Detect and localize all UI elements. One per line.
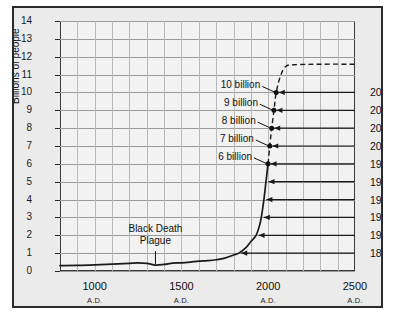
gridline-horizontal <box>60 271 355 272</box>
year-arrow <box>276 108 355 113</box>
year-annotation-label: 2009 <box>370 141 383 151</box>
year-annotation-label: 1930 <box>370 230 383 240</box>
callout-10-billion: 10 billion <box>14 80 260 90</box>
y-axis-tick-label: 2 <box>12 230 32 240</box>
x-axis-tick-sublabel: A.D. <box>325 296 383 305</box>
milestone-leader-line <box>260 104 272 110</box>
x-axis-tick-label: 1000 <box>65 280 125 292</box>
year-arrow <box>264 215 355 220</box>
x-axis-tick-sublabel: A.D. <box>238 296 298 305</box>
y-axis-tick-label: 5 <box>12 177 32 187</box>
milestone-leader-line <box>254 158 266 164</box>
y-axis-tick-label: 0 <box>12 266 32 276</box>
y-axis-tick-label: 4 <box>12 195 32 205</box>
x-axis-tick-sublabel: A.D. <box>151 296 211 305</box>
year-arrow <box>268 179 355 184</box>
year-arrow <box>241 251 355 256</box>
year-arrow <box>279 90 355 95</box>
year-annotation-label: 1960 <box>370 212 383 222</box>
historical-population-curve <box>60 164 268 266</box>
year-annotation-label: 2046 <box>370 87 383 97</box>
milestone-leader-line <box>258 122 270 128</box>
milestone-leader-line <box>262 86 274 92</box>
year-annotation-label: 2020 <box>370 123 383 133</box>
year-arrow <box>259 233 355 238</box>
y-axis-tick-label: 11 <box>12 70 32 80</box>
projected-population-curve <box>268 64 355 164</box>
year-annotation-label: 1830 <box>370 248 383 258</box>
plot-area <box>60 21 355 271</box>
milestone-leader-line <box>256 140 268 146</box>
year-annotation-label: 2033 <box>370 105 383 115</box>
milestone-dot <box>271 108 276 113</box>
year-annotation-label: 1975 <box>370 195 383 205</box>
callout-9-billion: 9 billion <box>14 98 258 108</box>
year-arrow <box>266 197 355 202</box>
year-arrow <box>272 143 355 148</box>
y-axis-tick-label: 12 <box>12 52 32 62</box>
x-axis-tick-label: 2000 <box>238 280 298 292</box>
black-death-line-1: Black Death <box>110 223 200 235</box>
y-axis-tick-label: 13 <box>12 34 32 44</box>
year-annotation-label: 1987 <box>370 177 383 187</box>
x-axis-tick-label: 2500 <box>325 280 383 292</box>
x-axis-tick-label: 1500 <box>151 280 211 292</box>
y-axis-tick-mark <box>55 271 60 272</box>
year-arrow <box>274 126 355 131</box>
year-annotation-label: 1999 <box>370 159 383 169</box>
chart-overlay <box>60 21 355 271</box>
x-axis-tick-sublabel: A.D. <box>65 296 125 305</box>
milestone-dot <box>266 161 271 166</box>
callout-7-billion: 7 billion <box>14 134 254 144</box>
y-axis-tick-label: 1 <box>12 248 32 258</box>
y-axis-tick-label: 3 <box>12 212 32 222</box>
callout-8-billion: 8 billion <box>14 116 256 126</box>
milestone-dot <box>267 144 272 149</box>
black-death-annotation: Black Death Plague <box>110 223 200 246</box>
callout-6-billion: 6 billion <box>14 152 252 162</box>
black-death-line-2: Plague <box>110 235 200 247</box>
figure-frame: Billions of people 14131211109876543210 … <box>12 6 383 308</box>
year-arrow <box>271 161 355 166</box>
milestone-dot <box>269 126 274 131</box>
milestone-dot <box>274 90 279 95</box>
y-axis-tick-label: 14 <box>12 16 32 26</box>
